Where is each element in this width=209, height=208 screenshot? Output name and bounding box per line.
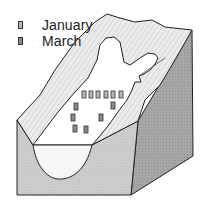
stake-marker (96, 91, 100, 98)
legend-swatch-january (18, 21, 23, 29)
stake-marker (99, 114, 103, 121)
stake-marker (111, 91, 115, 98)
legend: January March (18, 17, 93, 49)
stake-marker (119, 91, 123, 98)
stake-marker (74, 103, 78, 110)
stake-marker (111, 102, 115, 109)
legend-swatch-march (18, 37, 23, 45)
stake-marker (104, 91, 108, 98)
stake-marker (71, 114, 75, 121)
stake-marker (73, 125, 77, 132)
legend-item-january: January (18, 17, 93, 33)
legend-label-march: March (42, 33, 81, 49)
stake-marker (89, 91, 93, 98)
stake-marker (84, 126, 88, 133)
legend-label-january: January (42, 17, 93, 33)
legend-item-march: March (18, 33, 93, 49)
stake-marker (82, 91, 86, 98)
